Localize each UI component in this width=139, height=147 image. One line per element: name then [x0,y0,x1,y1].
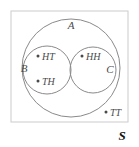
point-dot-hh [81,55,84,58]
venn-diagram-svg: A B C HT TH HH TT S [0,0,139,147]
point-label-ht: HT [41,51,56,62]
point-label-th: TH [42,76,56,87]
set-label-b: B [21,62,28,74]
point-label-hh: HH [85,51,101,62]
point-dot-th [37,80,40,83]
venn-diagram-figure: A B C HT TH HH TT S [0,0,139,147]
set-label-a: A [67,19,75,31]
point-dot-ht [37,55,40,58]
point-label-tt: TT [110,107,123,118]
universe-label-s: S [118,128,125,143]
point-dot-tt [105,111,108,114]
set-label-c: C [106,63,114,75]
